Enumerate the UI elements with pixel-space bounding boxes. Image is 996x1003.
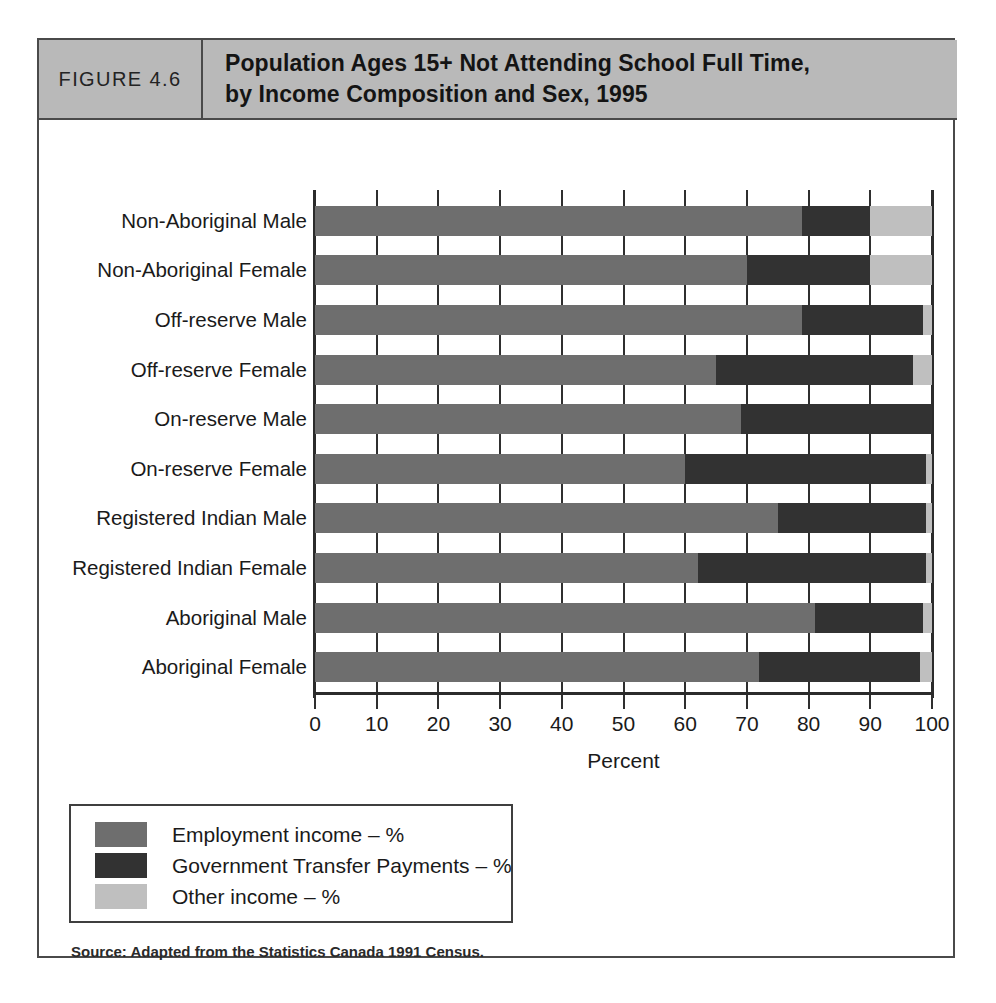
x-axis-tick xyxy=(561,695,563,709)
bar-segment xyxy=(315,652,759,682)
bar-row xyxy=(315,454,932,484)
bar-segment xyxy=(698,553,926,583)
figure-frame: FIGURE 4.6 Population Ages 15+ Not Atten… xyxy=(37,38,955,958)
x-axis-tick-label: 100 xyxy=(914,712,949,736)
x-axis-tick-label: 70 xyxy=(735,712,758,736)
x-axis-tick-label: 10 xyxy=(365,712,388,736)
figure-number-cell: FIGURE 4.6 xyxy=(39,40,203,118)
bar-segment xyxy=(685,454,926,484)
x-axis-tick-label: 90 xyxy=(859,712,882,736)
figure-number-label: FIGURE 4.6 xyxy=(59,68,182,91)
legend-label: Other income – % xyxy=(172,885,340,909)
bar-segment xyxy=(926,553,932,583)
x-axis-tick xyxy=(499,695,501,709)
bar-segment xyxy=(923,305,932,335)
bar-segment xyxy=(870,255,932,285)
legend-item: Government Transfer Payments – % xyxy=(95,850,512,881)
bar-segment xyxy=(815,603,923,633)
chart-body: Non-Aboriginal MaleNon-Aboriginal Female… xyxy=(39,120,957,958)
bar-row xyxy=(315,404,932,434)
category-label: On-reserve Female xyxy=(39,454,307,484)
category-label: Off-reserve Female xyxy=(39,355,307,385)
x-axis-tick-label: 40 xyxy=(550,712,573,736)
bar-segment xyxy=(315,503,778,533)
bar-segment xyxy=(926,454,932,484)
bar-segment xyxy=(870,206,932,236)
bar-segment xyxy=(315,404,741,434)
bar-segment xyxy=(926,503,932,533)
x-axis-tick-label: 50 xyxy=(612,712,635,736)
bar-row xyxy=(315,553,932,583)
legend-swatch xyxy=(95,822,147,847)
bar-row xyxy=(315,206,932,236)
bar-segment xyxy=(778,503,926,533)
x-axis-tick xyxy=(931,695,933,709)
bar-segment xyxy=(747,255,870,285)
x-axis-tick xyxy=(808,695,810,709)
bar-segment xyxy=(315,305,802,335)
bar-segment xyxy=(315,255,747,285)
bar-segment xyxy=(716,355,913,385)
bar-row xyxy=(315,255,932,285)
category-label: Registered Indian Female xyxy=(39,553,307,583)
bar-row xyxy=(315,603,932,633)
bar-segment xyxy=(923,603,932,633)
category-axis-labels: Non-Aboriginal MaleNon-Aboriginal Female… xyxy=(39,196,307,692)
figure-title-line-2: by Income Composition and Sex, 1995 xyxy=(225,79,957,110)
category-label: On-reserve Male xyxy=(39,404,307,434)
bar-segment xyxy=(802,305,922,335)
bar-row xyxy=(315,305,932,335)
bar-segment xyxy=(741,404,932,434)
legend-swatch xyxy=(95,853,147,878)
bar-row xyxy=(315,652,932,682)
bar-row xyxy=(315,503,932,533)
figure-title-line-1: Population Ages 15+ Not Attending School… xyxy=(225,48,957,79)
x-axis-tick xyxy=(746,695,748,709)
x-axis-tick xyxy=(376,695,378,709)
category-label: Non-Aboriginal Female xyxy=(39,255,307,285)
bar-segment xyxy=(315,355,716,385)
legend-label: Employment income – % xyxy=(172,823,404,847)
x-axis-tick xyxy=(437,695,439,709)
legend-swatch xyxy=(95,884,147,909)
x-axis-tick xyxy=(623,695,625,709)
category-label: Aboriginal Male xyxy=(39,603,307,633)
legend-label: Government Transfer Payments – % xyxy=(172,854,512,878)
bar-segment xyxy=(315,553,698,583)
legend: Employment income – %Government Transfer… xyxy=(69,804,513,923)
x-axis-tick xyxy=(684,695,686,709)
x-axis-title: Percent xyxy=(315,749,932,773)
x-axis-tick xyxy=(869,695,871,709)
x-axis-tick-label: 80 xyxy=(797,712,820,736)
legend-item: Other income – % xyxy=(95,881,340,912)
category-label: Aboriginal Female xyxy=(39,652,307,682)
x-axis-tick-label: 60 xyxy=(674,712,697,736)
bar-segment xyxy=(802,206,870,236)
bar-segment xyxy=(315,454,685,484)
x-axis-tick-label: 20 xyxy=(427,712,450,736)
bar-segment xyxy=(315,206,802,236)
bar-segment xyxy=(920,652,932,682)
figure-title-cell: Population Ages 15+ Not Attending School… xyxy=(203,40,957,118)
figure-header: FIGURE 4.6 Population Ages 15+ Not Atten… xyxy=(39,40,957,120)
x-axis-tick-label: 0 xyxy=(309,712,321,736)
legend-item: Employment income – % xyxy=(95,819,404,850)
plot-area: 0102030405060708090100 xyxy=(315,196,932,692)
category-label: Registered Indian Male xyxy=(39,503,307,533)
bar-segment xyxy=(759,652,919,682)
bar-row xyxy=(315,355,932,385)
category-label: Non-Aboriginal Male xyxy=(39,206,307,236)
x-axis-tick-label: 30 xyxy=(488,712,511,736)
bar-segment xyxy=(315,603,815,633)
bar-segment xyxy=(913,355,932,385)
category-label: Off-reserve Male xyxy=(39,305,307,335)
source-note: Source: Adapted from the Statistics Cana… xyxy=(71,943,484,960)
x-axis-tick xyxy=(314,695,316,709)
